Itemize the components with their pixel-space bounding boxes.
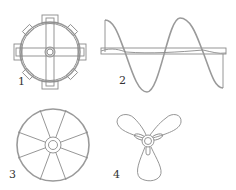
figure-4-label: 4 bbox=[113, 169, 120, 180]
figure-3-spoked-wheel bbox=[17, 109, 89, 181]
figure-1-label: 1 bbox=[18, 76, 25, 87]
figure-3-label: 3 bbox=[9, 169, 16, 180]
impeller-diagram: 1 2 3 4 bbox=[0, 0, 236, 190]
diagram-drawing bbox=[0, 0, 236, 190]
figure-2-label: 2 bbox=[119, 75, 126, 86]
figure-4-propeller bbox=[117, 115, 181, 181]
